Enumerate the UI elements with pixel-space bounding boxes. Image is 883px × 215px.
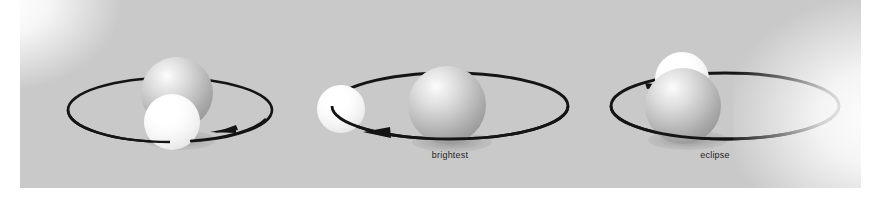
orbit-front-arc-right xyxy=(605,70,845,142)
caption-eclipse: eclipse xyxy=(600,150,830,160)
caption-brightest: brightest xyxy=(300,150,600,160)
orbit-front-arc-middle xyxy=(325,70,575,142)
panel-left xyxy=(0,0,300,188)
panel-middle: brightest xyxy=(300,0,600,188)
orbit-front-arc-left xyxy=(60,75,280,145)
panel-right: eclipse xyxy=(600,0,883,188)
figure-root: brightest eclipse xyxy=(0,0,883,215)
